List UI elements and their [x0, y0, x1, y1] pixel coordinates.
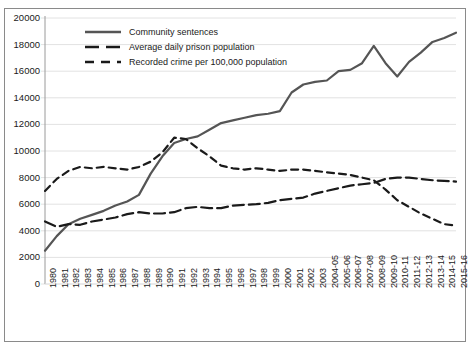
- legend-label-1: Average daily prison population: [129, 42, 254, 52]
- x-tick-label: 2015-16: [460, 255, 469, 288]
- x-tick-label: 1993: [202, 268, 211, 288]
- y-tick-label: 2000: [2, 252, 40, 262]
- x-tick-label: 1988: [143, 268, 152, 288]
- x-tick-label: 1984: [96, 268, 105, 288]
- figure-border: 0200040006000800010000120001400016000180…: [4, 8, 466, 342]
- x-tick-label: 2011-12: [413, 256, 422, 288]
- x-tick-label: 2009-10: [390, 255, 399, 288]
- y-tick-label: 4000: [2, 226, 40, 236]
- x-tick-label: 2013-14: [437, 255, 446, 288]
- legend-swatch-1: [83, 43, 123, 51]
- x-tick-label: 2012-13: [425, 255, 434, 288]
- legend-swatch-2: [83, 58, 123, 66]
- x-tick-label: 1992: [190, 268, 199, 288]
- x-tick-label: 1999: [272, 268, 281, 288]
- x-tick-label: 1980: [49, 268, 58, 288]
- x-tick-label: 2010-11: [401, 256, 410, 288]
- x-tick-label: 2008-09: [378, 255, 387, 288]
- x-tick-label: 1985: [108, 268, 117, 288]
- chart-figure: 0200040006000800010000120001400016000180…: [0, 0, 472, 350]
- y-tick-label: 0: [2, 279, 40, 289]
- legend-swatch-0: [83, 28, 123, 36]
- y-tick-label: 8000: [2, 173, 40, 183]
- x-tick-label: 1996: [237, 268, 246, 288]
- series-line-1: [45, 178, 456, 227]
- x-tick-label: 1991: [178, 268, 187, 288]
- x-tick-label: 2000: [284, 268, 293, 288]
- y-tick-label: 12000: [2, 119, 40, 129]
- x-tick-label: 1983: [84, 268, 93, 288]
- x-tick-label: 2007-08: [366, 255, 375, 288]
- x-tick-label: 2004-05: [331, 255, 340, 288]
- x-tick-label: 2001: [296, 268, 305, 288]
- x-tick-label: 2005-06: [343, 255, 352, 288]
- x-tick-label: 2002: [307, 268, 316, 288]
- y-tick-label: 14000: [2, 93, 40, 103]
- x-tick-label: 1982: [72, 268, 81, 288]
- y-tick-label: 16000: [2, 66, 40, 76]
- y-tick-label: 6000: [2, 199, 40, 209]
- x-tick-label: 1990: [166, 268, 175, 288]
- x-tick-label: 1997: [249, 268, 258, 288]
- x-tick-label: 1998: [260, 268, 269, 288]
- legend-label-2: Recorded crime per 100,000 population: [129, 57, 287, 67]
- x-tick-label: 2006-07: [354, 255, 363, 288]
- x-tick-label: 1989: [155, 268, 164, 288]
- x-tick-label: 2014-15: [448, 255, 457, 288]
- x-tick-label: 1981: [61, 268, 70, 288]
- y-tick-label: 18000: [2, 40, 40, 50]
- x-tick-label: 1986: [119, 268, 128, 288]
- x-tick-label: 1995: [225, 268, 234, 288]
- legend-label-0: Community sentences: [129, 27, 218, 37]
- x-tick-label: 1987: [131, 268, 140, 288]
- y-tick-label: 10000: [2, 146, 40, 156]
- x-tick-label: 2003: [319, 268, 328, 288]
- x-tick-label: 1994: [213, 268, 222, 288]
- y-tick-label: 20000: [2, 13, 40, 23]
